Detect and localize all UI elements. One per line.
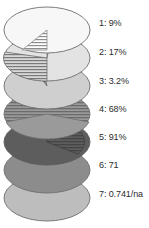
chart-figure: 1: 9% 2: 17% 3: 3.2% 4: 68% 5: 91% 6: 71… xyxy=(0,0,149,228)
legend-label-3: 3: 3.2% xyxy=(99,76,129,86)
legend-item-6[interactable]: 6: 71 xyxy=(99,160,119,170)
legend-label-1: 1: 9% xyxy=(99,18,122,28)
legend-item-4[interactable]: 4: 68% xyxy=(99,104,126,114)
legend-item-3[interactable]: 3: 3.2% xyxy=(99,76,129,86)
legend-item-7[interactable]: 7: 0.741/na xyxy=(99,189,143,199)
legend-item-5[interactable]: 5: 91% xyxy=(99,132,126,142)
legend-item-2[interactable]: 2: 17% xyxy=(99,47,126,57)
legend-label-5: 5: 91% xyxy=(99,132,126,142)
stacked-disc-graphic xyxy=(0,0,100,228)
stacked-pie-svg xyxy=(0,0,100,228)
legend-item-1[interactable]: 1: 9% xyxy=(99,18,122,28)
legend-label-7: 7: 0.741/na xyxy=(99,189,143,199)
chart-legend: 1: 9% 2: 17% 3: 3.2% 4: 68% 5: 91% 6: 71… xyxy=(99,0,149,228)
legend-label-2: 2: 17% xyxy=(99,47,126,57)
disc-1 xyxy=(4,7,90,53)
legend-label-6: 6: 71 xyxy=(99,160,119,170)
legend-label-4: 4: 68% xyxy=(99,104,126,114)
